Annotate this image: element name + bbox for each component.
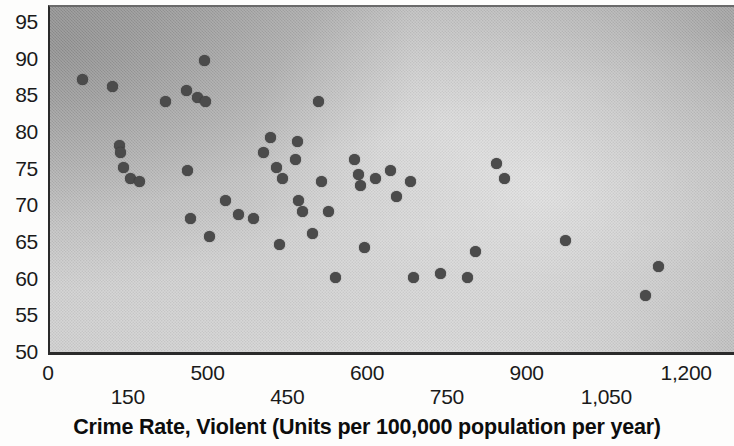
data-point [220, 195, 231, 206]
y-axis-tick-label: 80 [0, 121, 38, 142]
y-axis-tick-label: 60 [0, 268, 38, 289]
data-point [277, 173, 288, 184]
data-point [462, 272, 473, 283]
x-axis-tick-label: 500 [190, 362, 224, 383]
data-point [200, 96, 211, 107]
data-point [385, 165, 396, 176]
data-point [470, 246, 481, 257]
data-point [408, 272, 419, 283]
data-point [330, 272, 341, 283]
x-axis-tick-label: 900 [510, 362, 544, 383]
plot-background-gradient [50, 7, 734, 352]
data-point [271, 162, 282, 173]
data-point [134, 176, 145, 187]
data-point [265, 132, 276, 143]
scatter-chart-figure: 95908580757065605550 0150500450600750900… [0, 0, 734, 446]
y-axis-tick-label: 90 [0, 48, 38, 69]
data-point [316, 176, 327, 187]
data-point [355, 180, 366, 191]
data-point [77, 74, 88, 85]
data-point [653, 261, 664, 272]
x-axis-tick-label: 1,050 [581, 386, 632, 407]
data-point [107, 81, 118, 92]
data-point [370, 173, 381, 184]
data-point [353, 169, 364, 180]
x-axis-tick-label: 0 [42, 362, 53, 383]
plot-area [48, 5, 734, 355]
data-point [293, 195, 304, 206]
data-point [313, 96, 324, 107]
data-point [391, 191, 402, 202]
data-point [118, 162, 129, 173]
x-axis-tick-label: 600 [350, 362, 384, 383]
x-axis-tick-label: 1,200 [661, 362, 712, 383]
x-axis-tick-labels: 01505004506007509001,0501,200 [0, 356, 734, 408]
data-point [182, 165, 193, 176]
y-axis-tick-label: 75 [0, 158, 38, 179]
y-axis-tick-label: 95 [0, 11, 38, 32]
x-axis-title: Crime Rate, Violent (Units per 100,000 p… [0, 415, 734, 440]
y-axis-tick-label: 85 [0, 84, 38, 105]
data-point [115, 147, 126, 158]
y-axis-tick-labels: 95908580757065605550 [0, 0, 44, 360]
data-point [323, 206, 334, 217]
data-point [160, 96, 171, 107]
y-axis-tick-label: 65 [0, 231, 38, 252]
data-point [297, 206, 308, 217]
data-point [307, 228, 318, 239]
y-axis-tick-label: 55 [0, 304, 38, 325]
data-point [491, 158, 502, 169]
x-axis-tick-label: 450 [270, 386, 304, 407]
data-point [181, 85, 192, 96]
data-point [199, 55, 210, 66]
data-point [640, 290, 651, 301]
x-axis-tick-label: 750 [430, 386, 464, 407]
x-axis-tick-label: 150 [111, 386, 145, 407]
data-point [274, 239, 285, 250]
y-axis-tick-label: 70 [0, 194, 38, 215]
data-point [499, 173, 510, 184]
data-point [248, 213, 259, 224]
